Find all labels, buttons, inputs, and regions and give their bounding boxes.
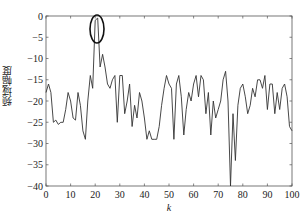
x-tick-label: 70	[213, 189, 223, 200]
axis-ticks	[46, 16, 292, 186]
y-tick-label: −35	[27, 159, 43, 170]
series-line	[46, 18, 292, 186]
plot-frame	[46, 16, 292, 186]
x-tick-label: 100	[285, 189, 300, 200]
y-axis-label: 频域幅度	[2, 66, 14, 106]
x-tick-label: 30	[115, 189, 125, 200]
x-tick-label: 50	[164, 189, 174, 200]
y-tick-label: −25	[27, 117, 43, 128]
line-chart: 0102030405060708090100 0−5−10−15−20−25−3…	[0, 0, 308, 219]
x-tick-label: 90	[262, 189, 272, 200]
y-tick-labels: 0−5−10−15−20−25−30−35−40	[27, 11, 43, 192]
x-tick-label: 60	[189, 189, 199, 200]
x-tick-label: 20	[90, 189, 100, 200]
y-tick-label: −15	[27, 74, 43, 85]
x-tick-label: 0	[44, 189, 49, 200]
data-series	[46, 18, 292, 186]
y-tick-label: −5	[32, 32, 43, 43]
y-tick-label: −30	[27, 138, 43, 149]
x-tick-label: 10	[66, 189, 76, 200]
y-tick-label: −40	[27, 181, 43, 192]
x-tick-label: 40	[139, 189, 149, 200]
y-tick-label: −10	[27, 53, 43, 64]
x-tick-label: 80	[238, 189, 248, 200]
y-tick-label: 0	[38, 11, 43, 22]
y-tick-label: −20	[27, 96, 43, 107]
x-tick-labels: 0102030405060708090100	[44, 189, 300, 200]
x-axis-label: k	[167, 202, 172, 213]
